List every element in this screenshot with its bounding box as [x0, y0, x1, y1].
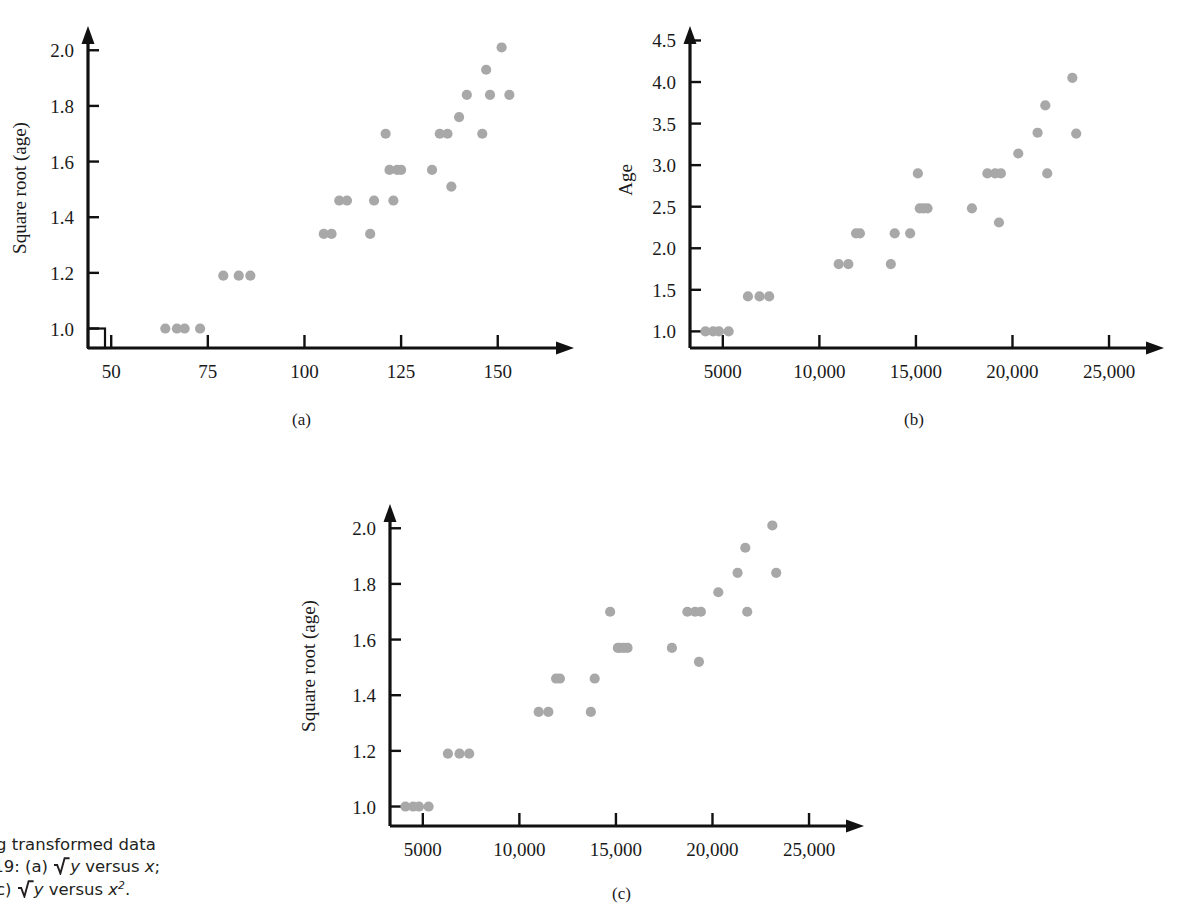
y-tick-label: 1.5 [652, 280, 676, 301]
data-point [160, 323, 170, 333]
data-point [996, 168, 1006, 178]
data-point [890, 228, 900, 238]
x-tick-label: 20,000 [986, 361, 1038, 382]
data-point [764, 291, 774, 301]
data-point [732, 568, 742, 578]
scatter-plot-a: 1.01.21.41.61.82.05075100125150Carapace … [0, 0, 600, 400]
scatter-panel-b: 1.01.52.02.53.03.54.04.5500010,00015,000… [610, 0, 1198, 400]
x-tick-label: 5000 [704, 361, 742, 382]
y-tick-label: 4.5 [652, 30, 676, 51]
caption-line-3: x2; (c) y versus x2. [0, 878, 252, 901]
y-tick-label: 1.2 [50, 263, 74, 284]
data-point [477, 129, 487, 139]
data-point [1032, 128, 1042, 138]
x-tick-label: 5000 [404, 839, 442, 860]
sqrt-icon [17, 879, 34, 902]
x-tick-label: 75 [198, 361, 217, 382]
panel-letter-c: (c) [612, 884, 631, 904]
x-tick-label: 15,000 [590, 839, 642, 860]
data-point [622, 643, 632, 653]
data-point [742, 607, 752, 617]
data-point [414, 801, 424, 811]
scatter-panel-c: 1.01.21.41.61.82.0500010,00015,00020,000… [285, 478, 905, 878]
data-point [442, 129, 452, 139]
y-tick-label: 2.5 [652, 197, 676, 218]
data-point [886, 259, 896, 269]
y-tick-label: 1.0 [50, 319, 74, 340]
data-point [504, 90, 514, 100]
data-point [365, 229, 375, 239]
x-axis-title: Carapace length [257, 397, 380, 400]
data-point-group [160, 42, 514, 333]
data-point [1071, 128, 1081, 138]
data-point [443, 749, 453, 759]
data-point [326, 229, 336, 239]
data-point [481, 65, 491, 75]
x-tick-label: 50 [102, 361, 121, 382]
data-point [424, 801, 434, 811]
caption-line-1: using transformed data [0, 834, 252, 855]
data-point [446, 182, 456, 192]
y-tick-label: 1.4 [50, 207, 74, 228]
data-point [713, 587, 723, 597]
data-point [388, 195, 398, 205]
y-tick-label: 1.6 [50, 152, 74, 173]
y-tick-label: 2.0 [50, 40, 74, 61]
data-point [967, 203, 977, 213]
scatter-plot-b: 1.01.52.02.53.03.54.04.5500010,00015,000… [610, 0, 1198, 400]
data-point [843, 259, 853, 269]
data-point [586, 707, 596, 717]
axis-break-marker [88, 329, 105, 348]
data-point [427, 165, 437, 175]
y-tick-label: 3.0 [652, 155, 676, 176]
data-point [464, 749, 474, 759]
x-tick-label: 150 [483, 361, 512, 382]
y-axis-title: Square root (age) [298, 600, 320, 732]
y-tick-label: 4.0 [652, 72, 676, 93]
y-tick-label: 2.0 [652, 238, 676, 259]
data-point [714, 326, 724, 336]
x-tick-label: 15,000 [890, 361, 942, 382]
data-point [534, 707, 544, 717]
y-tick-label: 3.5 [652, 114, 676, 135]
data-point [234, 271, 244, 281]
data-point [497, 42, 507, 52]
y-tick-label: 2.0 [352, 518, 376, 539]
x-axis-arrow-icon [846, 820, 864, 833]
data-point [1042, 168, 1052, 178]
x-tick-label: 10,000 [493, 839, 545, 860]
x-tick-label: 25,000 [1083, 361, 1135, 382]
y-tick-label: 1.2 [352, 741, 376, 762]
data-point [396, 165, 406, 175]
x-tick-label: 25,000 [783, 839, 835, 860]
data-point [342, 195, 352, 205]
data-point [855, 228, 865, 238]
data-point [555, 673, 565, 683]
data-point [740, 543, 750, 553]
data-point-group [400, 520, 781, 811]
data-point [605, 607, 615, 617]
data-point [1013, 148, 1023, 158]
y-tick-label: 1.8 [50, 96, 74, 117]
y-axis-title: Age [615, 164, 636, 196]
data-point [696, 607, 706, 617]
y-tick-label: 1.8 [352, 574, 376, 595]
x-axis-arrow-icon [1146, 342, 1164, 355]
data-point [922, 203, 932, 213]
data-point [218, 271, 228, 281]
data-point [913, 168, 923, 178]
data-point [195, 323, 205, 333]
data-point [454, 749, 464, 759]
y-axis-arrow-icon [384, 504, 397, 522]
data-point [454, 112, 464, 122]
x-axis-title: Length squared [555, 875, 673, 878]
data-point [381, 129, 391, 139]
data-point [767, 520, 777, 530]
data-point [834, 259, 844, 269]
y-tick-label: 1.6 [352, 630, 376, 651]
data-point-group [700, 73, 1081, 337]
x-tick-label: 100 [290, 361, 319, 382]
figure-number: 40 [0, 800, 252, 830]
y-tick-label: 1.4 [352, 685, 376, 706]
sqrt-icon [53, 856, 70, 879]
